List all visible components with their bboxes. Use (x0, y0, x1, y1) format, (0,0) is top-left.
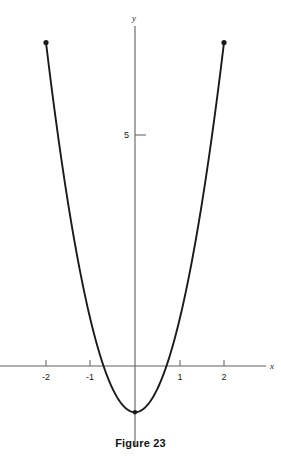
x-axis-label: x (269, 361, 274, 371)
x-tick-label-neg1: -1 (86, 372, 94, 382)
parabola-plot: -2 -1 1 2 5 x y (0, 0, 281, 458)
right-endpoint-dot (221, 40, 226, 45)
figure-caption: Figure 23 (0, 437, 281, 449)
y-axis-label: y (131, 13, 136, 23)
left-endpoint-dot (43, 40, 48, 45)
x-tick-label-neg2: -2 (42, 372, 50, 382)
x-tick-label-pos2: 2 (221, 372, 226, 382)
x-tick-label-pos1: 1 (177, 372, 182, 382)
figure-container: Functions -2 -1 1 2 5 x y Figure 23 (0, 0, 281, 458)
y-tick-label-5: 5 (124, 130, 129, 140)
vertex-dot (133, 410, 137, 414)
